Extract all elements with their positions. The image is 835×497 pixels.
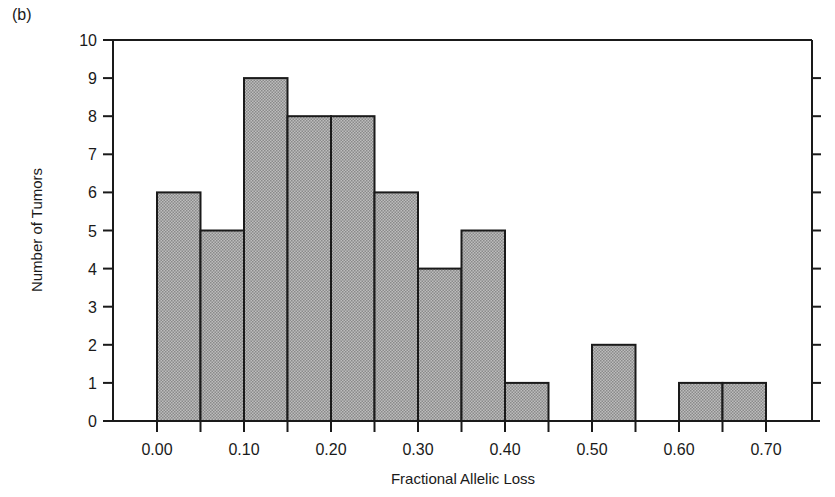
- x-tick-label: 0.40: [489, 441, 520, 458]
- histogram-bar: [375, 192, 419, 421]
- y-tick-label: 9: [88, 70, 97, 87]
- x-tick-label: 0.70: [750, 441, 781, 458]
- histogram-bar: [723, 383, 767, 421]
- histogram-bar: [592, 345, 636, 421]
- histogram-bar: [462, 231, 506, 422]
- y-tick-label: 4: [88, 261, 97, 278]
- histogram-bar: [201, 231, 245, 422]
- x-tick-label: 0.20: [315, 441, 346, 458]
- x-tick-label: 0.30: [402, 441, 433, 458]
- y-tick-label: 1: [88, 375, 97, 392]
- y-tick-label: 8: [88, 108, 97, 125]
- x-tick-label: 0.60: [663, 441, 694, 458]
- x-axis-title: Fractional Allelic Loss: [391, 470, 535, 487]
- y-tick-label: 2: [88, 337, 97, 354]
- histogram-bar: [157, 192, 201, 421]
- x-tick-label: 0.00: [141, 441, 172, 458]
- y-tick-label: 3: [88, 299, 97, 316]
- y-axis-title: Number of Tumors: [28, 168, 45, 292]
- bars-group: [157, 78, 766, 421]
- y-tick-label: 6: [88, 184, 97, 201]
- histogram-bar: [418, 269, 462, 421]
- y-tick-label: 0: [88, 413, 97, 430]
- histogram-bar: [679, 383, 723, 421]
- histogram-bar: [505, 383, 549, 421]
- y-tick-label: 7: [88, 146, 97, 163]
- histogram-chart: 012345678910 0.000.100.200.300.400.500.6…: [0, 0, 835, 497]
- y-tick-label: 5: [88, 223, 97, 240]
- x-tick-label: 0.10: [228, 441, 259, 458]
- x-tick-label: 0.50: [576, 441, 607, 458]
- histogram-bar: [288, 116, 332, 421]
- histogram-bar: [331, 116, 375, 421]
- histogram-bar: [244, 78, 288, 421]
- y-tick-label: 10: [79, 32, 97, 49]
- x-axis-ticks: 0.000.100.200.300.400.500.600.70: [141, 421, 781, 458]
